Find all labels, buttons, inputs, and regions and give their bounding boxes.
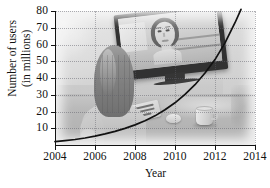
data-curve (0, 0, 270, 188)
figure: 1020304050607080 20042006200820102012201… (0, 0, 270, 188)
